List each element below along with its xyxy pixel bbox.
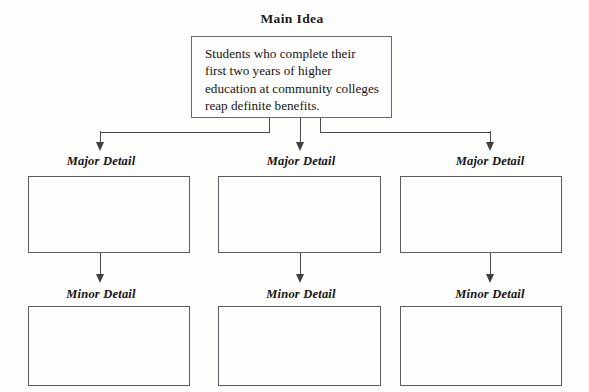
connector-main-left-horizontal	[100, 132, 270, 133]
minor-detail-heading-2: Minor Detail	[221, 287, 381, 302]
arrowhead-major-to-minor-1	[96, 274, 104, 283]
arrowhead-main-to-major-2	[296, 142, 304, 151]
arrowhead-main-to-major-3	[486, 142, 494, 151]
minor-detail-heading-1: Minor Detail	[21, 287, 181, 302]
main-idea-heading: Main Idea	[192, 11, 392, 27]
minor-detail-box-1[interactable]	[28, 306, 190, 386]
major-detail-box-3[interactable]	[400, 176, 562, 253]
main-idea-text: Students who complete their first two ye…	[205, 45, 380, 115]
minor-detail-box-3[interactable]	[400, 306, 562, 386]
major-detail-heading-2: Major Detail	[221, 154, 381, 169]
major-detail-box-2[interactable]	[218, 176, 381, 253]
minor-detail-heading-3: Minor Detail	[410, 287, 570, 302]
main-idea-box[interactable]: Students who complete their first two ye…	[191, 36, 392, 118]
connector-main-center	[300, 118, 301, 145]
graphic-organizer-canvas: Main Idea Students who complete their fi…	[0, 0, 589, 392]
major-detail-heading-1: Major Detail	[21, 154, 181, 169]
arrowhead-main-to-major-1	[96, 142, 104, 151]
arrowhead-major-to-minor-2	[296, 274, 304, 283]
connector-main-right-horizontal	[320, 132, 490, 133]
major-detail-box-1[interactable]	[28, 176, 190, 253]
arrowhead-major-to-minor-3	[486, 274, 494, 283]
major-detail-heading-3: Major Detail	[410, 154, 570, 169]
minor-detail-box-2[interactable]	[218, 306, 381, 386]
